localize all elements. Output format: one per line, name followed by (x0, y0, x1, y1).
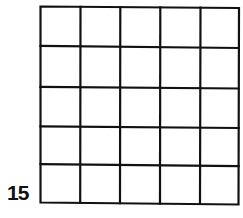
grid-border (41, 7, 240, 205)
empty-5x5-grid (0, 0, 243, 218)
grid-horizontal-line-1 (41, 46, 239, 48)
grid-vertical-line-4 (200, 8, 201, 204)
grid-horizontal-line-4 (41, 164, 239, 166)
grid-horizontal-line-3 (41, 126, 239, 128)
grid-lines (41, 7, 240, 205)
grid-horizontal-line-2 (41, 87, 239, 89)
